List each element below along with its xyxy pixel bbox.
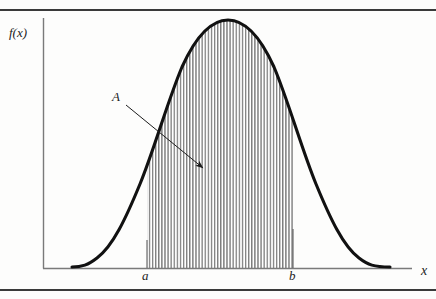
region-annotation-label: A <box>112 90 120 103</box>
figure-canvas: f(x) x a b A <box>0 0 436 299</box>
density-plot <box>0 0 436 299</box>
tick-label-a: a <box>142 269 149 282</box>
y-axis-label: f(x) <box>9 26 27 39</box>
tick-label-b: b <box>289 269 296 282</box>
shaded-region-A <box>43 20 413 268</box>
x-axis-label: x <box>421 264 427 278</box>
